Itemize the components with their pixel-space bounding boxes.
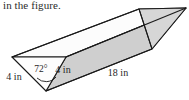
label-left-side-length: 4 in — [6, 71, 21, 82]
prism-diagram: 4 in 72° 4 in 18 in — [0, 0, 189, 100]
label-base-angle: 72° — [34, 64, 48, 74]
label-right-side-length: 4 in — [55, 64, 70, 75]
label-prism-length: 18 in — [108, 67, 128, 78]
figure-container: in the figure. 4 in 72° 4 in 18 in — [0, 0, 189, 100]
